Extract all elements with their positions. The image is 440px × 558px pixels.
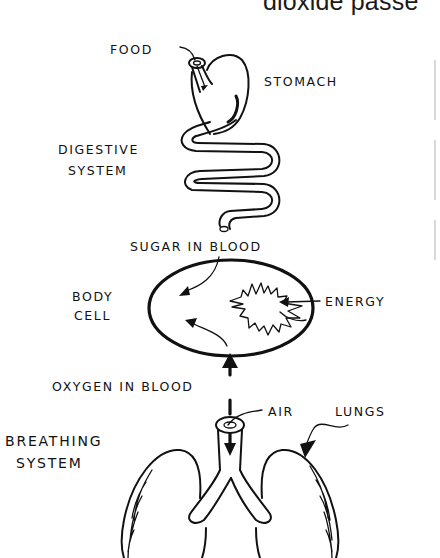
oxygen-arrow-line: [194, 324, 227, 346]
intestine-inner: [192, 120, 279, 229]
stomach: STOMACH: [189, 55, 338, 134]
energy-arrowhead: [279, 297, 289, 307]
trachea-right-wall: [231, 430, 271, 523]
digestive-label-line1: DIGESTIVE: [58, 142, 139, 157]
air-label: AIR: [268, 404, 294, 419]
body-cell-label-line2: CELL: [74, 308, 111, 323]
food-label-group: FOOD: [110, 42, 195, 60]
energy-arrow-line: [286, 301, 320, 302]
stomach-label: STOMACH: [264, 74, 338, 89]
breathing-label-line1: BREATHING: [5, 433, 102, 449]
breathing-label-line2: SYSTEM: [16, 455, 83, 471]
body-cell-label-line1: BODY: [72, 289, 113, 304]
sugar-in-blood-label: SUGAR IN BLOOD: [130, 239, 262, 254]
lungs-label: LUNGS: [335, 404, 385, 419]
energy-label: ENERGY: [325, 294, 385, 309]
intestine-outer: [182, 122, 272, 226]
left-lung-outline: [122, 450, 206, 558]
air-down-arrowhead: [224, 443, 236, 456]
stomach-shading: [228, 96, 238, 122]
body-cell: [149, 257, 313, 356]
trachea: AIR: [189, 404, 294, 523]
digestive-label-line2: SYSTEM: [68, 163, 127, 178]
oxygen-arrowhead: [185, 318, 197, 328]
body-cell-outline: [149, 260, 313, 356]
body-systems-diagram: FOOD STOMACH DIGESTIVE SYSTEM SUGAR IN B…: [0, 0, 440, 558]
esophagus-ring-inner: [194, 61, 201, 65]
oxygen-in-blood-label: OXYGEN IN BLOOD: [52, 379, 194, 394]
food-label: FOOD: [110, 42, 153, 57]
intestine: DIGESTIVE SYSTEM: [58, 120, 279, 232]
energy-arrow: ENERGY: [279, 294, 385, 309]
lungs: LUNGS: [122, 404, 386, 558]
sugar-arrowhead: [179, 286, 190, 296]
energy-burst-icon: [230, 283, 302, 335]
intestine-end: [220, 227, 228, 232]
trachea-ring: [216, 417, 244, 433]
left-lung-texture: [128, 470, 152, 558]
oxygen-up-arrow: [222, 353, 238, 414]
food-inner-arrowhead: [201, 85, 208, 91]
